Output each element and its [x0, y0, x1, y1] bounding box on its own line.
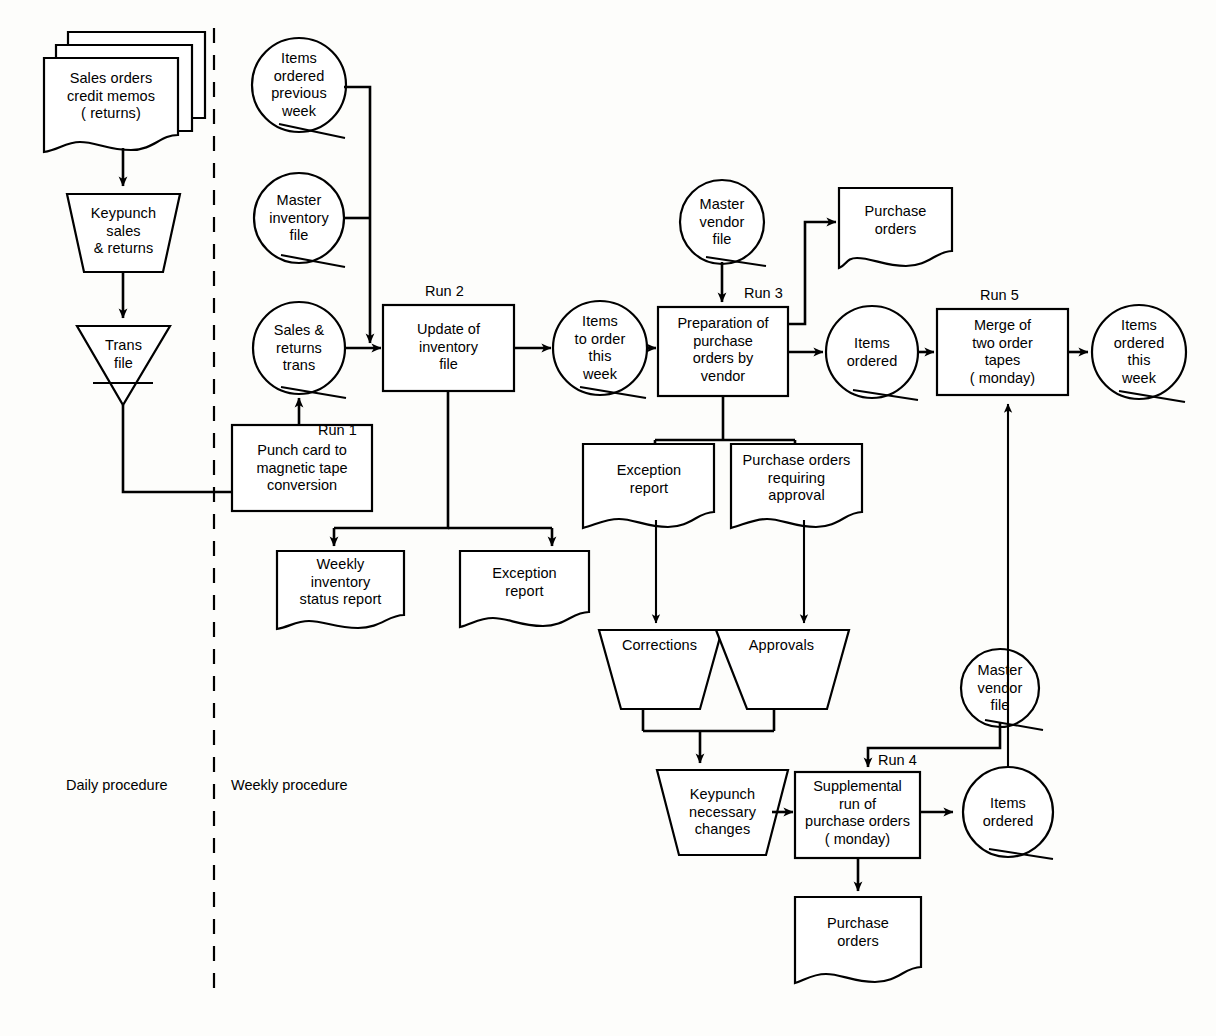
punch-card-conversion-label: Punch card to magnetic tape conversion [233, 442, 371, 495]
items-ordered-this-week-shape [1092, 305, 1186, 399]
flowchart-svg [0, 0, 1216, 1036]
run3-label: Run 3 [744, 285, 783, 301]
weekly-inventory-status-report-shape [277, 551, 404, 629]
daily-procedure-label: Daily procedure [66, 777, 168, 793]
items-ordered-prev-week-shape [252, 38, 346, 132]
preparation-purchase-orders-label: Preparation of purchase orders by vendor [659, 315, 787, 385]
exception-report-run3-shape [583, 444, 714, 528]
run5-label: Run 5 [980, 287, 1019, 303]
items-ordered-run4-shape [963, 767, 1053, 857]
run4-label: Run 4 [878, 752, 917, 768]
update-inventory-label: Update of inventory file [384, 321, 513, 374]
items-ordered-run3-shape [826, 306, 918, 398]
corrections-shape [599, 630, 722, 709]
merge-two-order-tapes-label: Merge of two order tapes ( monday) [938, 317, 1067, 387]
trans-file-shape [77, 326, 170, 405]
conn-run3-to-purchase-orders [788, 222, 836, 324]
po-requiring-approval-shape [731, 444, 862, 528]
items-to-order-shape [553, 301, 647, 395]
supplemental-run-label: Supplemental run of purchase orders ( mo… [791, 778, 924, 848]
flowchart-canvas: Sales orders credit memos ( returns) Key… [0, 0, 1216, 1036]
master-vendor-file-bottom-shape [961, 649, 1039, 727]
weekly-procedure-label: Weekly procedure [231, 777, 348, 793]
approvals-shape [716, 630, 849, 709]
sales-returns-trans-shape [253, 302, 345, 394]
exception-report-run2-shape [460, 551, 589, 627]
keypunch-necessary-changes-shape [657, 770, 788, 855]
run2-label: Run 2 [425, 283, 464, 299]
sales-orders-doc [44, 58, 178, 152]
keypunch-sales-shape [67, 194, 180, 272]
master-vendor-file-top-shape [680, 180, 764, 264]
run1-label: Run 1 [318, 422, 357, 438]
purchase-orders-bottom-shape [795, 897, 921, 983]
conn-tapebus-to-run2 [344, 87, 370, 343]
purchase-orders-top-shape [839, 188, 952, 268]
master-inventory-file-shape [254, 173, 344, 263]
